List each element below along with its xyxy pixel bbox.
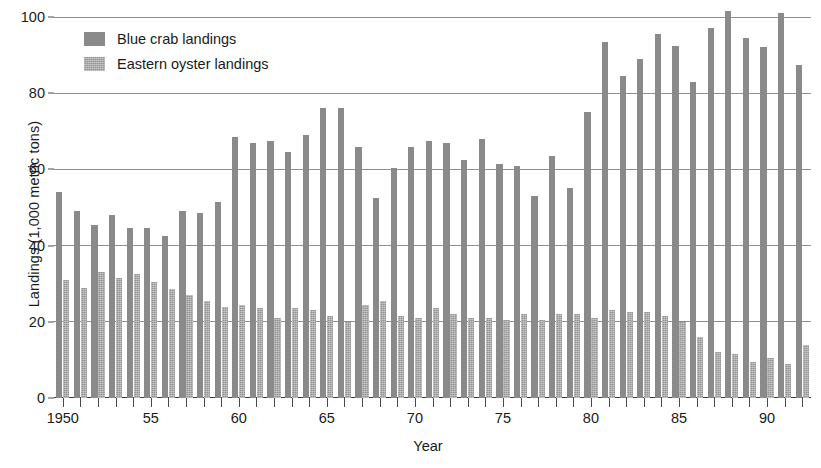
bar-blue-crab	[725, 11, 731, 398]
bar-blue-crab	[355, 147, 361, 398]
x-tick-mark-1979	[573, 398, 574, 407]
x-tick-mark-1992	[802, 398, 803, 407]
bar-group	[56, 17, 69, 398]
bar-blue-crab	[672, 46, 678, 398]
bar-eastern-oyster	[345, 322, 351, 398]
x-tick-mark-1951	[80, 398, 81, 407]
x-tick-mark-1986	[697, 398, 698, 407]
bar-group	[285, 17, 298, 398]
x-tick-mark-1976	[521, 398, 522, 407]
bar-group	[496, 17, 509, 398]
bar-blue-crab	[584, 112, 590, 398]
bar-group	[567, 17, 580, 398]
bar-group	[443, 17, 456, 398]
x-tick-mark-1960	[239, 398, 240, 407]
x-tick-mark-1990	[767, 398, 768, 407]
bar-eastern-oyster	[415, 318, 421, 398]
bar-group	[743, 17, 756, 398]
bar-group	[637, 17, 650, 398]
x-tick-mark-1956	[168, 398, 169, 407]
x-tick-mark-1977	[538, 398, 539, 407]
bar-group	[408, 17, 421, 398]
y-tick-label-100: 100	[21, 9, 45, 25]
x-tick-label-1970: 70	[407, 410, 423, 426]
bar-blue-crab	[708, 28, 714, 398]
bar-group	[338, 17, 351, 398]
x-tick-mark-1959	[221, 398, 222, 407]
bar-eastern-oyster	[627, 312, 633, 398]
bar-group	[620, 17, 633, 398]
bar-blue-crab	[74, 211, 80, 398]
bar-eastern-oyster	[274, 318, 280, 398]
bar-blue-crab	[320, 108, 326, 398]
bar-eastern-oyster	[697, 337, 703, 398]
bar-eastern-oyster	[186, 295, 192, 398]
bar-eastern-oyster	[204, 301, 210, 398]
x-tick-mark-1954	[133, 398, 134, 407]
bar-group	[426, 17, 439, 398]
x-tick-mark-1985	[679, 398, 680, 407]
bar-eastern-oyster	[81, 288, 87, 398]
bar-eastern-oyster	[98, 272, 104, 398]
legend-label-eastern-oyster: Eastern oyster landings	[117, 56, 269, 72]
x-tick-mark-1973	[468, 398, 469, 407]
bar-blue-crab	[109, 215, 115, 398]
bar-eastern-oyster	[715, 352, 721, 398]
x-tick-mark-1964	[309, 398, 310, 407]
x-tick-mark-1972	[450, 398, 451, 407]
x-tick-label-1985: 85	[671, 410, 687, 426]
y-tick-label-80: 80	[29, 85, 45, 101]
bar-group	[760, 17, 773, 398]
bar-group	[655, 17, 668, 398]
bar-eastern-oyster	[767, 358, 773, 398]
y-tick-label-60: 60	[29, 161, 45, 177]
x-tick-mark-1974	[485, 398, 486, 407]
bar-group	[549, 17, 562, 398]
bar-blue-crab	[443, 143, 449, 398]
bar-eastern-oyster	[503, 320, 509, 398]
chart-legend: Blue crab landings Eastern oyster landin…	[84, 28, 269, 78]
bar-blue-crab	[267, 141, 273, 398]
bar-eastern-oyster	[750, 362, 756, 398]
bar-group	[778, 17, 791, 398]
bar-eastern-oyster	[609, 310, 615, 398]
x-tick-label-1950: 1950	[47, 410, 79, 426]
bar-group	[391, 17, 404, 398]
bar-eastern-oyster	[134, 274, 140, 398]
bar-blue-crab	[303, 135, 309, 398]
x-tick-mark-1975	[503, 398, 504, 407]
bar-blue-crab	[796, 65, 802, 398]
legend-swatch-eastern-oyster	[84, 57, 105, 71]
bar-eastern-oyster	[398, 316, 404, 398]
x-axis-ticks: 19505560657075808590	[54, 398, 811, 438]
x-tick-mark-1957	[186, 398, 187, 407]
x-tick-mark-1971	[433, 398, 434, 407]
legend-label-blue-crab: Blue crab landings	[117, 31, 236, 47]
bar-group	[320, 17, 333, 398]
x-tick-mark-1967	[362, 398, 363, 407]
x-tick-mark-1966	[344, 398, 345, 407]
bar-group	[531, 17, 544, 398]
x-axis-title: Year	[45, 438, 811, 454]
bar-group	[584, 17, 597, 398]
bar-eastern-oyster	[151, 282, 157, 398]
bar-eastern-oyster	[362, 305, 368, 398]
bar-eastern-oyster	[556, 314, 562, 398]
bar-blue-crab	[232, 137, 238, 398]
bar-group	[602, 17, 615, 398]
legend-item-blue-crab: Blue crab landings	[84, 28, 269, 50]
x-tick-mark-1955	[151, 398, 152, 407]
bar-blue-crab	[637, 59, 643, 398]
bar-eastern-oyster	[327, 316, 333, 398]
legend-swatch-blue-crab	[84, 32, 105, 46]
bar-blue-crab	[144, 228, 150, 398]
bar-blue-crab	[620, 76, 626, 398]
chart-container: Landings (1,000 metric tons) 02040608010…	[0, 0, 821, 468]
bar-blue-crab	[602, 42, 608, 398]
x-tick-mark-1962	[274, 398, 275, 407]
bar-blue-crab	[531, 196, 537, 398]
x-tick-label-1975: 75	[495, 410, 511, 426]
bar-group	[373, 17, 386, 398]
x-tick-label-1965: 65	[319, 410, 335, 426]
bar-blue-crab	[690, 82, 696, 398]
